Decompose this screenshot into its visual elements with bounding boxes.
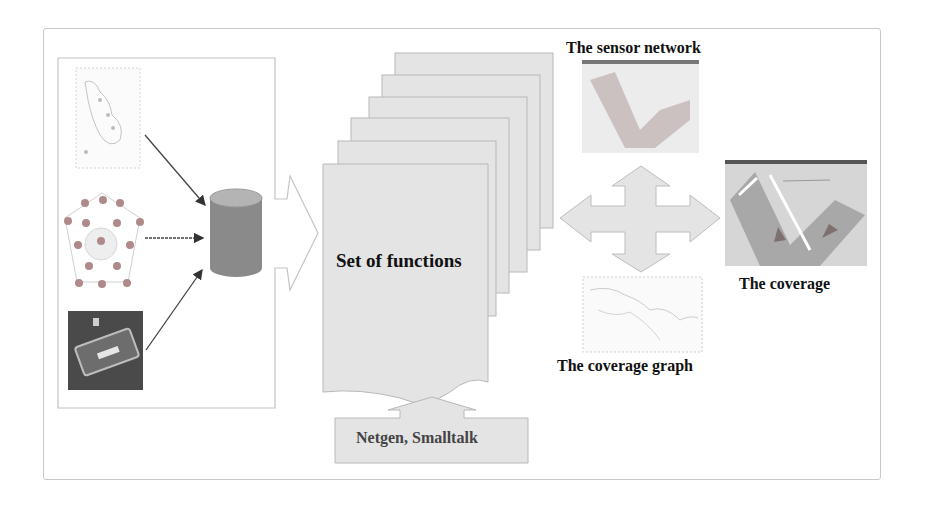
coverage-label: The coverage bbox=[739, 275, 830, 293]
satellite-photo-icon bbox=[68, 311, 143, 390]
four-way-arrow-icon bbox=[560, 166, 720, 272]
function-pages-stack bbox=[323, 53, 553, 403]
coverage-graph-image bbox=[583, 277, 702, 352]
coverage-graph-label: The coverage graph bbox=[557, 357, 693, 375]
sensor-network-label: The sensor network bbox=[566, 39, 701, 57]
sensor-network-image bbox=[582, 60, 699, 153]
coverage-image bbox=[725, 160, 867, 266]
terrain-map-icon bbox=[76, 68, 140, 168]
functions-label: Set of functions bbox=[336, 250, 462, 272]
front-page bbox=[323, 164, 488, 403]
database-icon bbox=[210, 189, 262, 277]
tools-label: Netgen, Smalltalk bbox=[356, 429, 478, 447]
